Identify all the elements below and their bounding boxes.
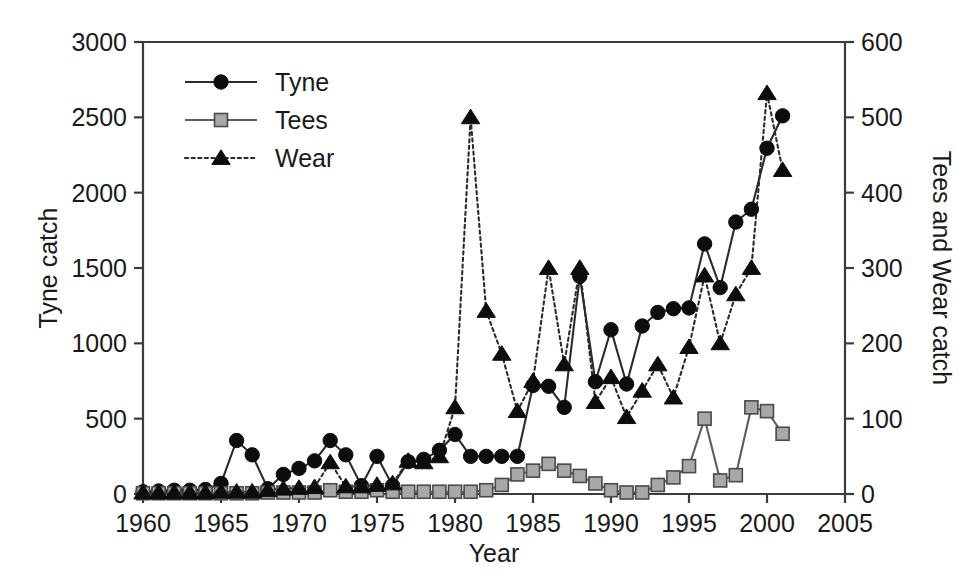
data-point-tyne xyxy=(666,301,680,315)
data-point-tyne xyxy=(557,400,571,414)
tick-label-bottom: 1965 xyxy=(193,509,249,537)
data-point-tyne xyxy=(370,449,384,463)
data-point-tees xyxy=(589,477,602,490)
bottom-axis-title: Year xyxy=(469,539,520,567)
data-point-tees xyxy=(651,478,664,491)
data-point-wear xyxy=(493,346,511,361)
data-point-tyne xyxy=(510,449,524,463)
tick-label-bottom: 1980 xyxy=(427,509,483,537)
tick-label-right: 500 xyxy=(861,103,903,131)
data-point-tees xyxy=(527,464,540,477)
data-point-tyne xyxy=(339,448,353,462)
tick-label-bottom: 1995 xyxy=(661,509,717,537)
tick-label-right: 0 xyxy=(861,480,875,508)
tick-label-left: 1000 xyxy=(71,329,127,357)
data-point-wear xyxy=(649,356,667,371)
data-point-tees xyxy=(433,485,446,498)
tick-label-bottom: 1960 xyxy=(115,509,171,537)
chart-legend: TyneTeesWear xyxy=(185,68,334,172)
data-point-tees xyxy=(620,486,633,499)
legend-marker-tyne xyxy=(214,75,228,89)
data-point-wear xyxy=(727,286,745,301)
data-point-tees xyxy=(480,484,493,497)
legend-label-tyne: Tyne xyxy=(275,68,329,96)
data-point-wear xyxy=(633,383,651,398)
data-point-tees xyxy=(605,484,618,497)
chart-figure: 050010001500200025003000 010020030040050… xyxy=(0,0,978,583)
data-point-wear xyxy=(680,339,698,354)
right-axis-ticks: 0100200300400500600 xyxy=(845,28,903,508)
data-point-wear xyxy=(664,389,682,404)
data-point-wear xyxy=(321,454,339,469)
data-point-tyne xyxy=(276,467,290,481)
tick-label-left: 2000 xyxy=(71,179,127,207)
tick-label-right: 300 xyxy=(861,254,903,282)
data-point-tyne xyxy=(307,454,321,468)
data-point-tees xyxy=(729,469,742,482)
tick-label-left: 3000 xyxy=(71,28,127,56)
data-point-tees xyxy=(495,478,508,491)
data-point-wear xyxy=(586,394,604,409)
series-markers-tees xyxy=(137,401,790,500)
tick-label-bottom: 1990 xyxy=(583,509,639,537)
data-point-tyne xyxy=(229,433,243,447)
data-point-tees xyxy=(683,460,696,473)
data-point-tyne xyxy=(495,449,509,463)
legend-item-tyne[interactable]: Tyne xyxy=(185,68,329,96)
data-point-tees xyxy=(698,412,711,425)
tick-label-right: 400 xyxy=(861,179,903,207)
left-axis-title: Tyne catch xyxy=(34,208,62,329)
series-markers-tyne xyxy=(136,109,790,499)
tick-label-bottom: 2005 xyxy=(817,509,873,537)
tick-label-left: 1500 xyxy=(71,254,127,282)
tick-label-right: 200 xyxy=(861,329,903,357)
legend-item-tees[interactable]: Tees xyxy=(185,106,328,134)
data-point-tees xyxy=(745,401,758,414)
data-point-tees xyxy=(324,484,337,497)
plot-frame xyxy=(143,42,845,494)
tick-label-left: 2500 xyxy=(71,103,127,131)
tick-label-right: 100 xyxy=(861,405,903,433)
legend-marker-tees xyxy=(215,114,228,127)
data-point-tees xyxy=(667,471,680,484)
data-point-wear xyxy=(773,162,791,177)
data-series-group xyxy=(134,85,792,500)
data-point-tyne xyxy=(744,202,758,216)
tick-label-left: 500 xyxy=(85,405,127,433)
data-point-tyne xyxy=(713,280,727,294)
data-point-wear xyxy=(539,260,557,275)
series-wear xyxy=(143,93,783,492)
tick-label-bottom: 2000 xyxy=(739,509,795,537)
series-line-tees xyxy=(143,407,783,493)
data-point-tees xyxy=(511,468,524,481)
data-point-tyne xyxy=(479,449,493,463)
data-point-tyne xyxy=(588,375,602,389)
legend-label-tees: Tees xyxy=(275,106,328,134)
legend-item-wear[interactable]: Wear xyxy=(185,144,334,172)
data-point-tees xyxy=(542,457,555,470)
data-point-wear xyxy=(602,369,620,384)
data-point-tees xyxy=(573,469,586,482)
data-point-tees xyxy=(464,485,477,498)
data-point-tyne xyxy=(760,141,774,155)
data-point-wear xyxy=(617,409,635,424)
data-point-tyne xyxy=(651,305,665,319)
data-point-tyne xyxy=(448,427,462,441)
data-point-tyne xyxy=(635,319,649,333)
tick-label-bottom: 1975 xyxy=(349,509,405,537)
left-axis-ticks: 050010001500200025003000 xyxy=(71,28,143,508)
data-point-wear xyxy=(742,260,760,275)
tick-label-left: 0 xyxy=(113,480,127,508)
data-point-tees xyxy=(449,485,462,498)
data-point-tyne xyxy=(697,237,711,251)
data-point-wear xyxy=(477,303,495,318)
data-point-tyne xyxy=(619,377,633,391)
legend-label-wear: Wear xyxy=(275,144,334,172)
series-tees xyxy=(143,407,783,493)
data-point-wear xyxy=(711,335,729,350)
tick-label-right: 600 xyxy=(861,28,903,56)
data-point-tees xyxy=(636,486,649,499)
data-point-wear xyxy=(758,85,776,100)
bottom-axis-ticks: 1960196519701975198019851990199520002005 xyxy=(115,494,873,537)
data-point-tees xyxy=(417,485,430,498)
